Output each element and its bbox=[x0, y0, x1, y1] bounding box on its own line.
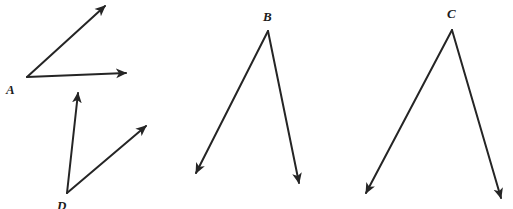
ray-b-right bbox=[268, 31, 299, 183]
ray-a-lower bbox=[27, 73, 126, 77]
ray-c-left bbox=[366, 30, 452, 193]
ray-b-left bbox=[196, 31, 268, 173]
vertex-label-c: C bbox=[447, 7, 456, 20]
angle-d-group bbox=[67, 93, 146, 193]
ray-c-right bbox=[452, 30, 501, 198]
angles-figure: A D B C bbox=[0, 0, 513, 209]
vertex-label-a: A bbox=[6, 83, 15, 96]
angles-diagram-canvas bbox=[0, 0, 513, 209]
vertex-label-b: B bbox=[263, 10, 272, 23]
ray-d-left bbox=[67, 93, 78, 193]
vertex-label-d: D bbox=[57, 199, 66, 209]
ray-d-right bbox=[67, 126, 146, 193]
ray-a-upper bbox=[27, 6, 105, 77]
angle-b-group bbox=[196, 31, 299, 183]
angle-a-group bbox=[27, 6, 126, 77]
angle-c-group bbox=[366, 30, 501, 198]
